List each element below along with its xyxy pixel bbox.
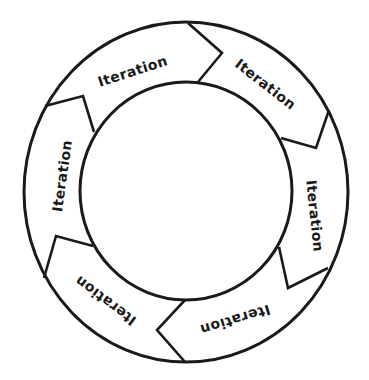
chevron-divider-lower-left (44, 236, 93, 278)
segment-label-bottom-right: Iteration (198, 302, 272, 338)
chevron-divider-upper-right (281, 110, 329, 148)
chevron-divider-top (188, 23, 222, 82)
chevron-divider-bottom (157, 300, 185, 362)
segment-label-top-right: Iteration (232, 56, 299, 113)
cycle-ring-svg: Iteration Iteration Iteration Iteration … (0, 0, 369, 380)
segment-label-right: Iteration (303, 179, 326, 253)
outer-ring (24, 22, 348, 362)
inner-ring (80, 82, 292, 300)
segment-label-left: Iteration (49, 139, 75, 213)
chevron-divider-upper-left (45, 96, 94, 132)
chevron-divider-lower-right (279, 247, 328, 288)
iteration-cycle-diagram: Iteration Iteration Iteration Iteration … (0, 0, 369, 380)
